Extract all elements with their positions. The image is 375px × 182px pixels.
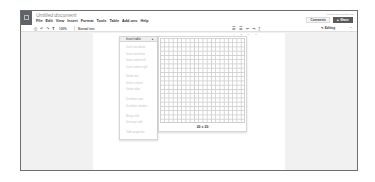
undo-icon[interactable]: ↶ <box>40 26 43 31</box>
paragraph-style-select[interactable]: Normal text <box>78 27 95 31</box>
redo-icon[interactable]: ↷ <box>46 26 49 31</box>
table-size-grid[interactable] <box>160 38 245 123</box>
menu-item-merge-cells: Merge cells <box>126 115 139 118</box>
table-menu: Insert row above Insert row below Insert… <box>119 37 158 140</box>
menu-item-distribute-rows: Distribute rows <box>126 98 143 101</box>
menu-item-insert-row-above: Insert row above <box>126 46 145 49</box>
menu-item-distribute-columns: Distribute columns <box>126 105 147 108</box>
menu-item-unmerge-cells: Unmerge cells <box>126 121 143 124</box>
menu-item-insert-column-left: Insert column left <box>126 59 146 62</box>
menu-item-delete-table: Delete table <box>126 88 140 91</box>
menu-edit[interactable]: Edit <box>46 19 53 23</box>
menubar: File Edit View Insert Format Tools Table… <box>36 19 149 23</box>
menu-file[interactable]: File <box>36 19 43 23</box>
print-icon[interactable]: ⎙ <box>34 26 37 31</box>
toolbar: ⎙ ↶ ↷ 𝐓 100% Normal text ☰ ☰ ⇤ ⇥ T̲ ✎ Ed… <box>21 25 357 32</box>
table-size-grid-picker: 20 x 20 <box>158 36 247 132</box>
comments-button[interactable]: Comments <box>306 17 330 23</box>
menu-item-delete-column: Delete column <box>126 82 143 85</box>
menu-table[interactable]: Table <box>109 19 119 23</box>
ruler-tick: 6 <box>248 33 249 36</box>
menu-view[interactable]: View <box>56 19 65 23</box>
menu-item-insert-column-right: Insert column right <box>126 66 147 69</box>
share-label: Share <box>340 18 348 22</box>
header: Untitled document File Edit View Insert … <box>21 11 357 25</box>
menu-help[interactable]: Help <box>140 19 148 23</box>
clear-formatting-icon[interactable]: T̲ <box>258 26 260 31</box>
grid-size-label: 20 x 20 <box>159 125 246 129</box>
google-docs-window: Untitled document File Edit View Insert … <box>20 10 358 171</box>
menu-insert[interactable]: Insert <box>67 19 77 23</box>
numbered-list-icon[interactable]: ☰ <box>232 26 236 31</box>
menu-tools[interactable]: Tools <box>97 19 107 23</box>
menu-item-table-properties: Table properties <box>126 131 144 134</box>
menu-item-insert-table[interactable]: Insert table ▸ <box>119 36 158 42</box>
share-button[interactable]: 🔒︎ Share <box>333 17 353 23</box>
paint-format-icon[interactable]: 𝐓 <box>52 26 55 31</box>
ruler-tick: 7 <box>255 33 256 36</box>
chevron-up-icon[interactable]: ⌃ <box>349 26 352 31</box>
menu-addons[interactable]: Add-ons <box>122 19 137 23</box>
increase-indent-icon[interactable]: ⇥ <box>252 26 255 31</box>
docs-home-icon[interactable] <box>21 11 32 25</box>
editing-mode-select[interactable]: ✎ Editing <box>321 26 335 30</box>
zoom-select[interactable]: 100% <box>59 27 67 31</box>
decrease-indent-icon[interactable]: ⇤ <box>246 26 249 31</box>
menu-format[interactable]: Format <box>81 19 94 23</box>
user-email[interactable]: person.user@gmail.com <box>327 13 354 16</box>
menu-item-delete-row: Delete row <box>126 75 138 78</box>
pencil-icon: ✎ <box>321 26 324 30</box>
menu-item-insert-row-below: Insert row below <box>126 53 145 56</box>
submenu-arrow-icon: ▸ <box>152 37 154 42</box>
bulleted-list-icon[interactable]: ☰ <box>239 26 243 31</box>
document-title[interactable]: Untitled document <box>36 12 76 18</box>
